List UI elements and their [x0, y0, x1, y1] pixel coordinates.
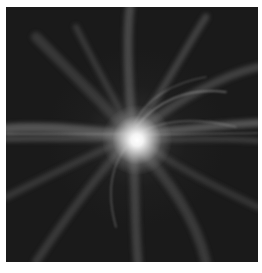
bright-core [102, 105, 172, 175]
filament-image [6, 7, 258, 262]
